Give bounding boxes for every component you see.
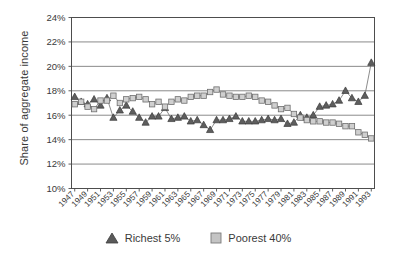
data-point-poorest	[265, 99, 270, 104]
data-point-poorest	[240, 94, 245, 99]
data-point-poorest	[175, 97, 180, 102]
data-point-richest	[213, 116, 220, 123]
y-axis-ticks-group: 10%12%14%16%18%20%22%24%	[46, 12, 71, 194]
data-point-poorest	[246, 93, 251, 98]
data-point-poorest	[169, 99, 174, 104]
data-point-poorest	[111, 93, 116, 98]
data-point-poorest	[207, 89, 212, 94]
y-tick-label: 20%	[46, 61, 66, 72]
data-point-richest	[194, 116, 201, 123]
legend-item-richest: Richest 5%	[105, 232, 181, 244]
data-point-poorest	[272, 103, 277, 108]
y-tick-label: 16%	[46, 110, 66, 121]
chart-figure: Share of aggregate income 10%12%14%16%18…	[0, 0, 396, 260]
data-point-poorest	[259, 98, 264, 103]
data-point-poorest	[362, 132, 367, 137]
data-point-richest	[90, 95, 97, 102]
data-point-poorest	[220, 92, 225, 97]
y-tick-label: 12%	[46, 158, 66, 169]
data-point-richest	[335, 97, 342, 104]
data-point-richest	[329, 100, 336, 107]
data-point-poorest	[91, 106, 96, 111]
data-point-poorest	[124, 97, 129, 102]
data-point-richest	[207, 126, 214, 133]
data-point-richest	[181, 113, 188, 120]
data-point-poorest	[330, 120, 335, 125]
y-axis-title: Share of aggregate income	[18, 8, 30, 188]
data-point-richest	[232, 113, 239, 120]
square-icon	[210, 232, 222, 244]
data-point-richest	[245, 117, 252, 124]
legend-item-poorest: Poorest 40%	[210, 232, 291, 244]
data-point-poorest	[356, 130, 361, 135]
data-point-poorest	[156, 99, 161, 104]
data-point-poorest	[349, 124, 354, 129]
y-tick-label: 24%	[46, 12, 66, 23]
data-point-richest	[368, 59, 375, 66]
data-point-richest	[71, 93, 78, 100]
data-series-group	[71, 59, 375, 141]
data-point-poorest	[136, 94, 141, 99]
data-point-poorest	[98, 98, 103, 103]
legend-label-poorest: Poorest 40%	[228, 232, 291, 244]
data-point-poorest	[188, 94, 193, 99]
chart-plot-svg: 10%12%14%16%18%20%22%24% 194719491951195…	[0, 0, 396, 232]
data-point-poorest	[304, 117, 309, 122]
data-point-richest	[342, 87, 349, 94]
data-point-poorest	[336, 121, 341, 126]
data-point-poorest	[369, 136, 374, 141]
legend-label-richest: Richest 5%	[125, 232, 181, 244]
y-tick-label: 14%	[46, 134, 66, 145]
y-tick-label: 18%	[46, 85, 66, 96]
x-tick-label: 1993	[353, 189, 373, 209]
data-point-poorest	[130, 95, 135, 100]
data-point-poorest	[227, 93, 232, 98]
data-point-poorest	[78, 99, 83, 104]
data-point-poorest	[343, 124, 348, 129]
data-point-poorest	[285, 105, 290, 110]
data-point-richest	[200, 121, 207, 128]
data-point-poorest	[149, 102, 154, 107]
data-point-poorest	[323, 120, 328, 125]
data-point-poorest	[72, 102, 77, 107]
chart-legend: Richest 5% Poorest 40%	[0, 232, 396, 244]
data-point-poorest	[253, 94, 258, 99]
data-point-poorest	[201, 93, 206, 98]
data-point-poorest	[117, 100, 122, 105]
y-tick-label: 22%	[46, 36, 66, 47]
data-point-richest	[148, 113, 155, 120]
data-point-poorest	[195, 93, 200, 98]
data-point-richest	[361, 92, 368, 99]
data-point-poorest	[143, 97, 148, 102]
data-point-poorest	[311, 119, 316, 124]
data-point-poorest	[162, 104, 167, 109]
data-point-poorest	[317, 119, 322, 124]
data-point-poorest	[233, 94, 238, 99]
x-axis-ticks-group: 1947194919511953195519571959196119631965…	[57, 189, 373, 209]
data-point-richest	[123, 102, 130, 109]
y-tick-label: 10%	[46, 183, 66, 194]
data-point-richest	[265, 115, 272, 122]
data-point-poorest	[182, 98, 187, 103]
data-point-poorest	[291, 111, 296, 116]
gridlines-group	[72, 18, 375, 165]
data-point-poorest	[85, 104, 90, 109]
data-point-poorest	[104, 98, 109, 103]
data-point-poorest	[298, 115, 303, 120]
data-point-richest	[277, 115, 284, 122]
data-point-poorest	[278, 106, 283, 111]
data-point-richest	[239, 117, 246, 124]
data-point-richest	[116, 106, 123, 113]
triangle-icon	[105, 232, 119, 244]
data-point-poorest	[214, 87, 219, 92]
